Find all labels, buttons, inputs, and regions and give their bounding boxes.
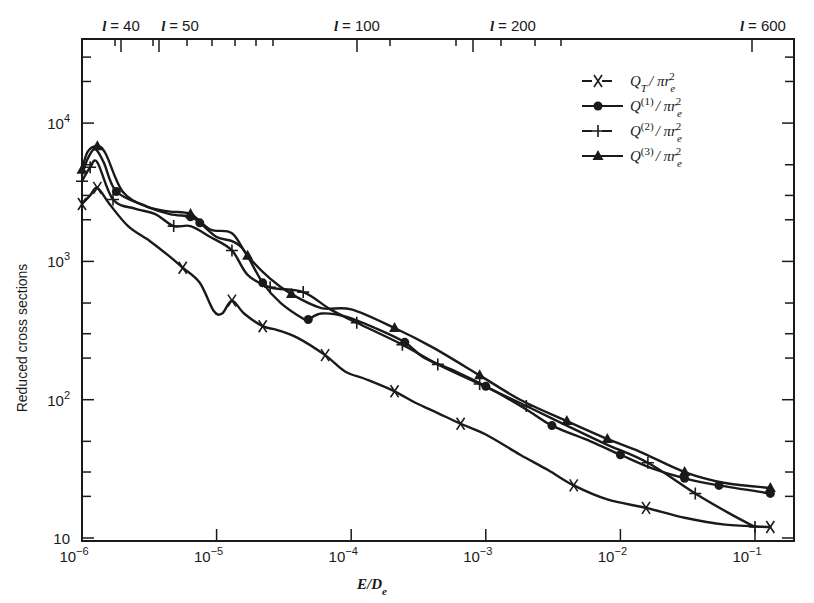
cross-section-chart: 10102103104 10−610−510−410−310−210−1 l =… — [0, 0, 814, 603]
x-tick-label: 10−2 — [598, 545, 627, 565]
series-circle — [82, 149, 775, 498]
top-axis-l-ticks: l = 40l = 50l = 100l = 200l = 600 — [102, 17, 786, 52]
top-axis-label: l = 100 — [334, 17, 380, 34]
y-tick-label: 102 — [47, 389, 70, 409]
top-axis-label: l = 40 — [102, 17, 140, 34]
legend-entry-triangle: Q(3)/ πre2 — [582, 145, 682, 169]
x-tick-label: 10−3 — [463, 545, 492, 565]
x-tick-label: 10−6 — [59, 545, 88, 565]
x-tick-label: 10−1 — [732, 545, 761, 565]
y-tick-label: 10 — [53, 530, 70, 547]
y-tick-label: 103 — [47, 250, 70, 270]
legend-label: QT/ πre2 — [630, 70, 675, 94]
top-axis-label: l = 200 — [490, 17, 536, 34]
svg-text:E/De: E/De — [356, 576, 387, 597]
legend-label: Q(2)/ πre2 — [630, 120, 682, 144]
legend-label: Q(1)/ πre2 — [630, 95, 682, 119]
y-tick-label: 104 — [47, 112, 70, 132]
top-axis-label: l = 600 — [740, 17, 786, 34]
x-axis-ticks: 10−610−510−410−310−210−1 — [59, 529, 761, 565]
x-tick-label: 10−4 — [329, 545, 358, 565]
x-axis-title: E/De — [356, 576, 387, 597]
y-axis-title: Reduced cross sections — [14, 264, 30, 413]
legend-entry-circle: Q(1)/ πre2 — [582, 95, 682, 119]
plot-frame — [82, 39, 794, 541]
legend: QT/ πre2Q(1)/ πre2Q(2)/ πre2Q(3)/ πre2 — [582, 70, 682, 169]
x-tick-label: 10−5 — [194, 545, 223, 565]
legend-label: Q(3)/ πre2 — [630, 145, 682, 169]
series-layer — [76, 140, 776, 533]
legend-entry-x: QT/ πre2 — [582, 70, 675, 94]
series-triangle — [77, 140, 776, 492]
legend-entry-plus: Q(2)/ πre2 — [582, 120, 682, 144]
top-axis-label: l = 50 — [161, 17, 199, 34]
